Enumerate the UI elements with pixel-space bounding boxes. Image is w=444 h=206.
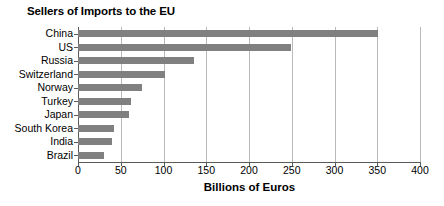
bar-row xyxy=(78,54,420,68)
chart-title: Sellers of Imports to the EU xyxy=(27,5,175,17)
plot-area xyxy=(78,27,420,162)
bar-india[interactable] xyxy=(78,138,112,145)
y-axis-label-china: China xyxy=(0,27,73,41)
y-tickmark xyxy=(74,101,78,102)
x-axis-title: Billions of Euros xyxy=(78,181,421,193)
bar-chart-figure: Sellers of Imports to the EU ChinaUSRuss… xyxy=(0,0,444,206)
bar-us[interactable] xyxy=(78,44,291,51)
bar-row xyxy=(78,95,420,109)
y-tickmark xyxy=(74,74,78,75)
bar-row xyxy=(78,68,420,82)
x-axis-tick-labels: 050100150200250300350400 xyxy=(0,164,444,178)
x-tick-label-150: 150 xyxy=(186,164,226,177)
y-axis-label-us: US xyxy=(0,41,73,55)
x-tick-label-200: 200 xyxy=(229,164,269,177)
bar-row xyxy=(78,41,420,55)
bar-row xyxy=(78,108,420,122)
y-axis-label-switzerland: Switzerland xyxy=(0,68,73,82)
y-axis-label-south-korea: South Korea xyxy=(0,122,73,136)
bar-row xyxy=(78,81,420,95)
x-tick-label-250: 250 xyxy=(272,164,312,177)
x-tick-label-0: 0 xyxy=(58,164,98,177)
y-tickmark xyxy=(74,88,78,89)
bar-brazil[interactable] xyxy=(78,152,104,159)
x-tick-label-50: 50 xyxy=(101,164,141,177)
y-axis-label-turkey: Turkey xyxy=(0,95,73,109)
y-axis-label-india: India xyxy=(0,135,73,149)
y-tickmark xyxy=(74,34,78,35)
y-axis-label-brazil: Brazil xyxy=(0,149,73,163)
y-axis-label-russia: Russia xyxy=(0,54,73,68)
y-tickmark xyxy=(74,142,78,143)
bar-norway[interactable] xyxy=(78,84,142,91)
bar-russia[interactable] xyxy=(78,57,194,64)
x-tick-label-350: 350 xyxy=(357,164,397,177)
bar-switzerland[interactable] xyxy=(78,71,165,78)
y-tickmark xyxy=(74,128,78,129)
y-tickmark xyxy=(74,115,78,116)
gridline-400 xyxy=(420,27,421,162)
y-tickmark xyxy=(74,155,78,156)
y-tickmark xyxy=(74,47,78,48)
bar-china[interactable] xyxy=(78,30,378,37)
bar-row xyxy=(78,27,420,41)
bar-row xyxy=(78,122,420,136)
y-axis-category-labels: ChinaUSRussiaSwitzerlandNorwayTurkeyJapa… xyxy=(0,27,73,162)
x-tick-label-300: 300 xyxy=(315,164,355,177)
x-tick-label-400: 400 xyxy=(400,164,440,177)
y-axis-label-japan: Japan xyxy=(0,108,73,122)
bar-south-korea[interactable] xyxy=(78,125,114,132)
bar-row xyxy=(78,149,420,163)
y-tickmark xyxy=(74,61,78,62)
y-axis-label-norway: Norway xyxy=(0,81,73,95)
x-tick-label-100: 100 xyxy=(144,164,184,177)
bar-turkey[interactable] xyxy=(78,98,131,105)
bar-row xyxy=(78,135,420,149)
bar-japan[interactable] xyxy=(78,111,129,118)
